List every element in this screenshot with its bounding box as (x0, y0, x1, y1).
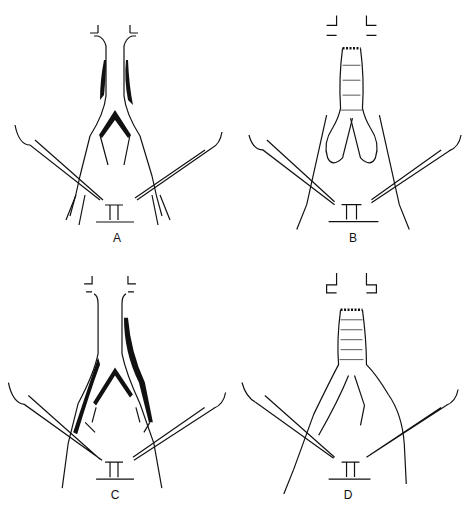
native-anatomy-drawing-c (0, 258, 237, 516)
bifurcated-graft-drawing-d (237, 258, 474, 516)
panel-label-b: B (343, 231, 363, 245)
panel-d: D (237, 258, 474, 516)
bifurcated-graft-drawing-b (237, 0, 474, 258)
panel-label-c: C (105, 488, 125, 502)
panel-a: A (0, 0, 237, 258)
panel-b: B (237, 0, 474, 258)
panel-label-a: A (107, 231, 127, 245)
panel-label-d: D (338, 488, 358, 502)
native-anatomy-drawing-a (0, 0, 237, 258)
panel-c: C (0, 258, 237, 516)
